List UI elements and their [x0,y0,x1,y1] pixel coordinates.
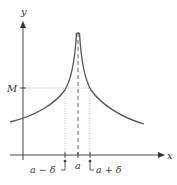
function-curve [10,33,144,124]
curve-right-branch [80,33,145,124]
a-plus-delta-label: a + δ [96,164,122,175]
a-plus-delta-bracket [90,161,94,170]
x-axis-arrow-icon [158,152,165,158]
curve-left-branch [10,33,77,122]
diagram: y x M a a − δ a + δ [0,0,177,185]
m-label: M [6,83,18,94]
y-axis-label: y [20,6,27,17]
a-label: a [75,160,81,171]
axes [10,21,165,160]
x-axis-label: x [167,150,173,161]
y-axis-arrow-icon [20,21,26,28]
a-minus-delta-bracket [61,161,65,170]
a-minus-delta-label: a − δ [30,164,56,175]
